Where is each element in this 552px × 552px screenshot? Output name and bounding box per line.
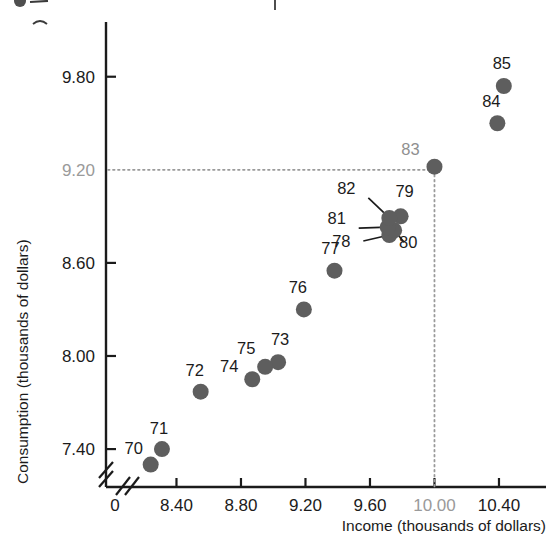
data-point-84 bbox=[489, 115, 505, 131]
data-points bbox=[143, 78, 512, 473]
y-tick-marks bbox=[106, 77, 116, 449]
data-point-76 bbox=[296, 301, 312, 317]
data-point-label-84: 84 bbox=[482, 92, 500, 110]
data-point-label-83: 83 bbox=[401, 140, 419, 158]
data-point-83 bbox=[426, 159, 442, 175]
x-tick-label-9.20: 9.20 bbox=[289, 496, 322, 515]
y-tick-label-9.80: 9.80 bbox=[62, 68, 95, 87]
y-axis-title: Consumption (thousands of dollars) bbox=[14, 239, 31, 484]
plot-canvas: 70717273747576777879808182838485 08.408.… bbox=[0, 0, 552, 552]
data-point-label-73: 73 bbox=[271, 330, 289, 348]
y-tick-label-7.40: 7.40 bbox=[62, 440, 95, 459]
data-point-label-70: 70 bbox=[125, 439, 143, 457]
data-point-label-79: 79 bbox=[395, 182, 413, 200]
y-tick-label-8.60: 8.60 bbox=[62, 254, 95, 273]
x-tick-label-8.80: 8.80 bbox=[224, 496, 257, 515]
y-tick-label-8.00: 8.00 bbox=[62, 347, 95, 366]
data-point-77 bbox=[327, 263, 343, 279]
data-point-label-75: 75 bbox=[237, 339, 255, 357]
data-point-71 bbox=[154, 441, 170, 457]
data-point-82 bbox=[381, 210, 397, 226]
scatter-plot-figure: 70717273747576777879808182838485 08.408.… bbox=[0, 0, 552, 552]
y-tick-labels: 7.408.008.609.209.80 bbox=[62, 68, 95, 459]
data-point-label-72: 72 bbox=[185, 361, 203, 379]
data-point-label-78: 78 bbox=[332, 232, 350, 250]
x-tick-marks bbox=[176, 478, 499, 487]
data-point-label-71: 71 bbox=[150, 419, 168, 437]
x-axis-title: Income (thousands of dollars) bbox=[342, 517, 546, 534]
x-tick-label-10.00: 10.00 bbox=[413, 496, 456, 515]
x-tick-label-9.60: 9.60 bbox=[353, 496, 386, 515]
data-point-70 bbox=[143, 457, 159, 473]
data-point-74 bbox=[244, 371, 260, 387]
x-tick-label-0: 0 bbox=[110, 496, 119, 515]
data-point-label-81: 81 bbox=[328, 209, 346, 227]
x-tick-labels: 08.408.809.209.6010.0010.40 bbox=[110, 496, 520, 515]
data-point-75 bbox=[257, 359, 273, 375]
data-point-72 bbox=[193, 384, 209, 400]
top-edge-crop-artifacts bbox=[14, 0, 275, 24]
data-point-labels: 70717273747576777879808182838485 bbox=[125, 54, 511, 457]
data-point-label-74: 74 bbox=[220, 357, 238, 375]
x-tick-label-8.40: 8.40 bbox=[160, 496, 193, 515]
data-point-label-80: 80 bbox=[399, 233, 417, 251]
y-tick-label-9.20: 9.20 bbox=[62, 161, 95, 180]
data-point-label-82: 82 bbox=[337, 179, 355, 197]
data-point-label-76: 76 bbox=[289, 278, 307, 296]
data-point-label-85: 85 bbox=[493, 54, 511, 72]
x-tick-label-10.40: 10.40 bbox=[478, 496, 521, 515]
